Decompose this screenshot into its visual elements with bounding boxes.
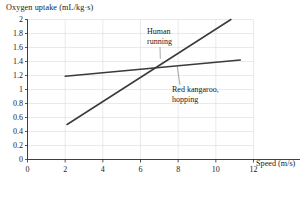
y-tick-label: 1 <box>19 85 23 94</box>
x-tick-label: 2 <box>63 165 67 174</box>
y-tick-label: 1.6 <box>13 43 23 52</box>
y-tick-label: 0 <box>19 155 23 164</box>
annotation-red-kangaroo-line1: Red kangaroo, <box>172 85 219 94</box>
tick-marks <box>25 20 254 163</box>
y-tick-label: 1.2 <box>13 71 23 80</box>
y-tick-label: 0.4 <box>13 127 23 136</box>
y-tick-label: 0.6 <box>13 113 23 122</box>
chart-plot-area: 00.20.40.60.811.21.41.61.82 024681012 Hu… <box>0 0 307 197</box>
x-tick-label: 6 <box>139 165 143 174</box>
oxygen-uptake-speed-chart: Oxygen uptake (mL/kg·s) 00.20.40.60.811.… <box>0 0 307 197</box>
y-axis-tick-labels: 00.20.40.60.811.21.41.61.82 <box>13 15 23 164</box>
x-axis-title: Speed (m/s) <box>256 159 296 168</box>
series-line <box>65 60 240 76</box>
annotation-red-kangaroo-line2: hopping <box>172 95 198 104</box>
annotation-human-running-line2: running <box>147 37 172 46</box>
y-tick-label: 1.4 <box>13 57 23 66</box>
y-tick-label: 1.8 <box>13 29 23 38</box>
x-tick-label: 4 <box>101 165 105 174</box>
x-tick-label: 10 <box>212 165 220 174</box>
annotation-human-running-line1: Human <box>147 27 171 36</box>
x-tick-label: 0 <box>26 165 30 174</box>
y-tick-label: 0.2 <box>13 141 23 150</box>
x-tick-label: 8 <box>176 165 180 174</box>
y-tick-label: 2 <box>19 15 23 24</box>
y-tick-label: 0.8 <box>13 99 23 108</box>
x-axis-tick-labels: 024681012 <box>26 165 258 174</box>
